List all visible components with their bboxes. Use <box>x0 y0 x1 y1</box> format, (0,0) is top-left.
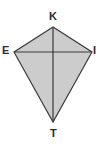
geometry-figure-canvas: K E I T <box>0 0 102 147</box>
vertex-label-i: I <box>93 45 96 56</box>
vertex-label-k: K <box>49 11 57 22</box>
vertex-label-e: E <box>2 45 9 56</box>
kite-diagram-svg <box>0 0 102 147</box>
vertex-label-t: T <box>50 128 57 139</box>
